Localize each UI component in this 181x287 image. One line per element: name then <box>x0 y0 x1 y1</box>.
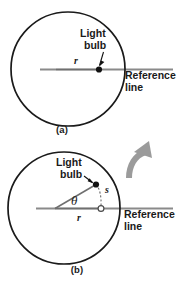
light-bulb-label-b-line2: bulb <box>60 168 82 180</box>
light-bulb-marker-a <box>96 66 102 72</box>
radius-label-b: r <box>77 212 81 223</box>
physics-figure-angular-displacement: Light bulb r Reference line (a) <box>0 0 181 287</box>
arc-length-label-b: s <box>104 184 109 195</box>
panel-a: Light bulb r Reference line (a) <box>11 12 176 135</box>
radius-label-a: r <box>74 55 78 66</box>
light-bulb-label-a-line1: Light <box>80 27 106 39</box>
light-bulb-label-b-line1: Light <box>56 156 82 168</box>
figure-canvas: Light bulb r Reference line (a) <box>0 0 181 287</box>
rotation-arrow-b <box>126 141 152 178</box>
reference-line-label-a-line2: line <box>125 81 143 93</box>
angle-label-b: θ <box>71 193 78 208</box>
panel-caption-a: (a) <box>56 124 68 135</box>
arc-length-s-b <box>97 186 101 206</box>
panel-caption-b: (b) <box>71 264 84 275</box>
reference-line-label-a-line1: Reference <box>125 69 176 81</box>
reference-line-label-b-line1: Reference <box>124 208 175 220</box>
light-bulb-marker-b <box>93 181 99 187</box>
light-bulb-label-a-line2: bulb <box>84 39 106 51</box>
reference-line-label-b-line2: line <box>124 220 142 232</box>
reference-point-marker-b <box>98 206 104 212</box>
panel-b: Light bulb s θ r Reference line (b) <box>8 141 175 275</box>
